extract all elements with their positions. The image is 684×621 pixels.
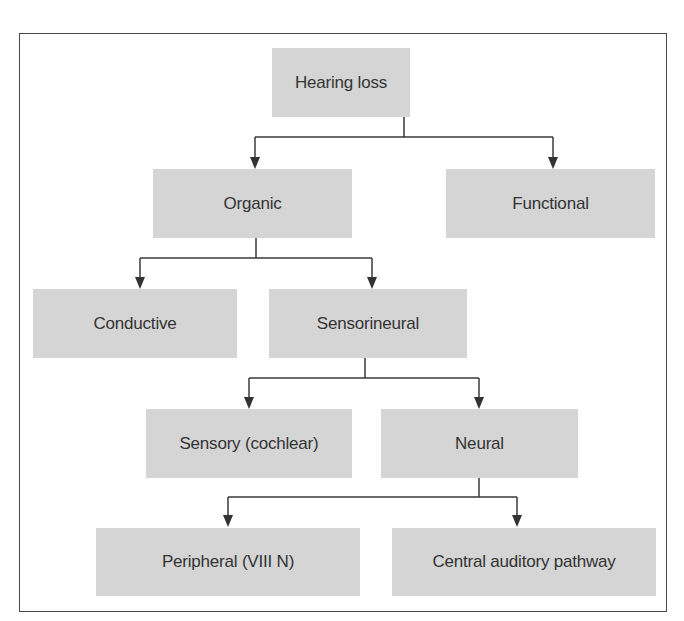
node-hearing-loss: Hearing loss (272, 48, 410, 117)
node-functional: Functional (446, 169, 655, 238)
node-central-auditory-pathway: Central auditory pathway (392, 528, 656, 596)
node-organic: Organic (153, 169, 352, 238)
node-peripheral: Peripheral (VIII N) (96, 528, 360, 596)
node-sensory-cochlear: Sensory (cochlear) (146, 409, 352, 478)
node-sensorineural: Sensorineural (269, 289, 467, 358)
node-neural: Neural (381, 409, 578, 478)
node-conductive: Conductive (33, 289, 237, 358)
